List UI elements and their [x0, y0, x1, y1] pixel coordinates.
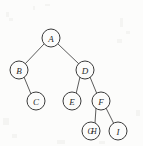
tree-node-f: F [92, 92, 110, 110]
node-label-e: E [68, 97, 75, 107]
node-label-b: B [16, 66, 22, 76]
tree-node-gh: GH [82, 122, 100, 140]
tree-edge-d-f [90, 77, 97, 94]
tree-edge-d-e [76, 77, 80, 94]
tree-node-d: D [76, 61, 94, 79]
node-label-c: C [33, 97, 40, 107]
binary-tree-figure: ABDCEFGHI [0, 0, 143, 146]
tree-node-b: B [10, 61, 28, 79]
tree-edge-f-i [106, 108, 114, 124]
tree-edges [24, 44, 114, 124]
tree-node-i: I [109, 122, 127, 140]
tree-node-a: A [42, 29, 60, 47]
node-label-a: A [47, 34, 54, 44]
tree-edge-a-b [25, 44, 44, 64]
node-label-f: F [97, 97, 104, 107]
node-label-d: D [81, 66, 89, 76]
tree-node-e: E [63, 92, 81, 110]
tree-edge-b-c [24, 77, 31, 94]
tree-edge-a-d [58, 44, 79, 64]
tree-edge-f-gh [95, 108, 96, 123]
tree-graphic: ABDCEFGHI [0, 0, 143, 146]
tree-node-c: C [27, 92, 45, 110]
